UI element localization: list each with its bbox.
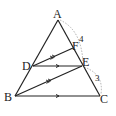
label-D: D [22,59,31,73]
label-F: F [72,39,79,53]
label-4: 4 [79,34,84,44]
label-3: 3 [95,73,100,83]
triangle-diagram: A B C D E F 4 3 [0,0,116,116]
label-E: E [82,55,89,69]
side-AC [58,20,100,96]
label-C: C [100,92,108,106]
label-A: A [53,7,62,21]
parallel-mark-DF [50,55,55,60]
label-B: B [4,90,12,104]
